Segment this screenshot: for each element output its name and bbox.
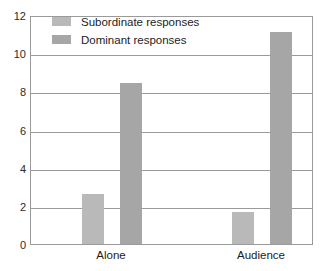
legend-swatch-dominant [52, 35, 71, 44]
legend-swatch-subordinate [52, 17, 71, 26]
x-tick-label: Alone [96, 248, 125, 262]
chart-legend: Subordinate responses Dominant responses [52, 14, 199, 50]
y-tick-label: 0 [2, 240, 26, 251]
x-tick-label: Audience [237, 248, 285, 262]
y-tick-label: 2 [2, 201, 26, 212]
bar-audience-dominant [270, 32, 292, 244]
legend-item-subordinate: Subordinate responses [52, 14, 199, 29]
y-tick-label: 12 [2, 11, 26, 22]
y-tick-label: 10 [2, 49, 26, 60]
bar-alone-dominant [120, 83, 142, 244]
legend-item-dominant: Dominant responses [52, 32, 199, 47]
legend-label-dominant: Dominant responses [81, 34, 186, 46]
x-axis: AloneAudience [30, 248, 313, 268]
bar-chart: 024681012 AloneAudience Subordinate resp… [0, 0, 327, 271]
y-tick-label: 6 [2, 125, 26, 136]
legend-label-subordinate: Subordinate responses [81, 16, 199, 28]
plot-area [30, 16, 313, 245]
bar-alone-subordinate [82, 194, 104, 244]
y-tick-label: 8 [2, 87, 26, 98]
bar-audience-subordinate [232, 212, 254, 244]
y-tick-label: 4 [2, 163, 26, 174]
y-axis: 024681012 [0, 0, 26, 271]
